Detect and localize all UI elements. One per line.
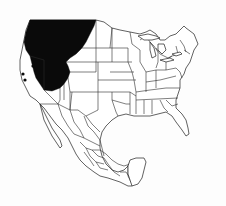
range-map: Distribution range [0,0,226,206]
yucatan-peninsula [128,158,146,186]
range-dot-1 [31,64,34,67]
map-canvas [0,0,226,206]
range-dot-2 [21,72,24,75]
range-dot-3 [23,78,26,81]
